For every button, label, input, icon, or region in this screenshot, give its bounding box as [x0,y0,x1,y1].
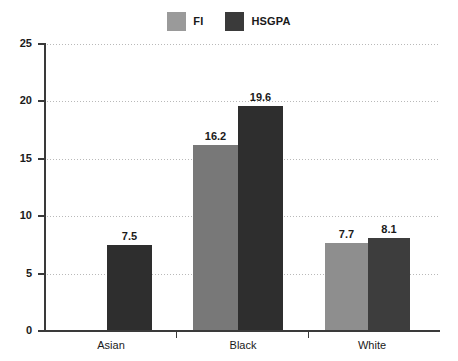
bar-value-black-fi: 16.2 [193,131,238,142]
x-tick-label-white: White [327,340,417,351]
y-axis-line [44,43,46,332]
bar-value-white-hsgpa: 8.1 [368,224,410,235]
bar-value-white-fi: 7.7 [325,229,368,240]
bar-white-fi [325,243,368,331]
bar-chart: FI HSGPA 7.5 16.2 19.6 7.7 8.1 25 20 1 [0,0,458,361]
bar-asian-hsgpa [107,245,152,331]
y-tick-label-0: 0 [2,325,32,336]
y-tick-mark-5 [38,273,45,275]
y-tick-mark-15 [38,158,45,160]
legend-label-fi: FI [193,16,203,27]
bar-black-fi [193,145,238,331]
y-tick-mark-25 [38,43,45,45]
y-tick-label-5: 5 [2,268,32,279]
y-tick-label-20: 20 [2,95,32,106]
y-tick-mark-0 [38,330,45,332]
x-axis-line [44,330,440,332]
legend-swatch-hsgpa [225,12,244,31]
y-tick-mark-20 [38,100,45,102]
legend-item-hsgpa: HSGPA [225,12,290,31]
legend-item-fi: FI [167,12,203,31]
bar-value-black-hsgpa: 19.6 [238,92,283,103]
bar-black-hsgpa [238,106,283,331]
y-tick-label-10: 10 [2,210,32,221]
bar-white-hsgpa [368,238,410,331]
x-tick-label-black: Black [198,340,288,351]
bar-value-asian-hsgpa: 7.5 [107,231,152,242]
x-separator-1 [176,331,177,338]
y-tick-label-25: 25 [2,38,32,49]
y-tick-label-15: 15 [2,153,32,164]
chart-legend: FI HSGPA [0,12,458,31]
x-tick-label-asian: Asian [66,340,156,351]
legend-swatch-fi [167,12,186,31]
plot-area: 7.5 16.2 19.6 7.7 8.1 [44,44,440,331]
legend-label-hsgpa: HSGPA [251,16,290,27]
y-tick-mark-10 [38,215,45,217]
x-separator-2 [308,331,309,338]
gridline-25 [44,44,440,45]
